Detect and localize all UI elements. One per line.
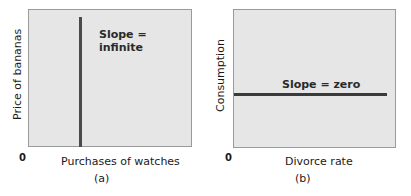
x-axis-label-a: Purchases of watches <box>61 155 180 168</box>
chart-b-plot-area: Slope = zero <box>233 9 396 148</box>
slope-zero-annotation: Slope = zero <box>282 78 360 91</box>
origin-label-a: 0 <box>19 152 26 163</box>
panel-caption-a: (a) <box>94 172 109 185</box>
annotation-line-1: Slope = <box>99 28 147 41</box>
panel-caption-b: (b) <box>295 172 311 185</box>
annotation-line-2: infinite <box>99 41 147 54</box>
chart-a-plot-area: Slope = infinite <box>28 9 192 147</box>
x-axis-label-b: Divorce rate <box>285 155 353 168</box>
horizontal-line <box>234 93 387 96</box>
y-axis-label-b: Consumption <box>214 39 227 112</box>
vertical-line <box>79 17 82 147</box>
origin-label-b: 0 <box>225 152 232 163</box>
y-axis-label-a: Price of bananas <box>11 29 24 120</box>
slope-infinite-annotation: Slope = infinite <box>99 28 147 54</box>
